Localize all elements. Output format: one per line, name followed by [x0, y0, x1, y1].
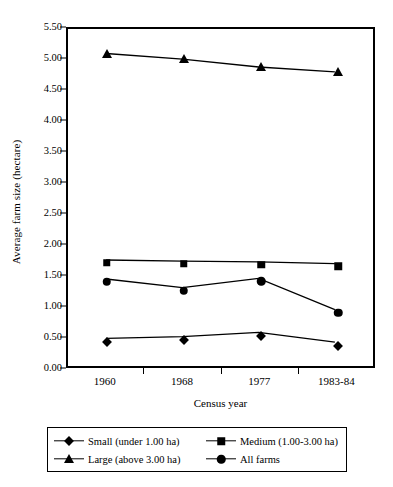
data-point-marker — [257, 277, 266, 286]
diamond-marker-icon — [54, 435, 84, 447]
legend-label: Small (under 1.00 ha) — [88, 436, 180, 447]
y-axis-tick-label: 5.00 — [2, 53, 62, 64]
data-point-marker — [103, 259, 111, 267]
x-axis-tick-label: 1983-84 — [291, 376, 381, 387]
y-axis-tick-label: 5.50 — [2, 22, 62, 33]
legend-label: All farms — [240, 454, 280, 465]
data-point-marker — [333, 341, 343, 351]
y-axis-tick-label: 1.00 — [2, 301, 62, 312]
y-axis-tick-label: 2.00 — [2, 239, 62, 250]
y-axis-tick-label: 3.50 — [2, 146, 62, 157]
circle-marker-icon — [206, 453, 236, 465]
legend-item-large: Large (above 3.00 ha) — [54, 453, 206, 465]
data-point-marker — [180, 286, 189, 295]
x-axis-tick-mark — [221, 368, 222, 374]
data-point-marker — [257, 261, 265, 269]
data-point-marker — [334, 309, 343, 318]
y-axis-tick-label: 0.00 — [2, 363, 62, 374]
data-point-marker — [256, 331, 266, 341]
legend-item-small: Small (under 1.00 ha) — [54, 435, 206, 447]
data-point-marker — [102, 278, 111, 287]
data-point-marker — [180, 260, 188, 268]
data-point-marker — [179, 54, 189, 63]
x-axis-tick-mark — [298, 368, 299, 374]
data-point-marker — [102, 337, 112, 347]
data-point-marker — [333, 67, 343, 76]
x-axis-tick-mark — [143, 368, 144, 374]
legend-label: Medium (1.00-3.00 ha) — [240, 436, 338, 447]
series-markers — [68, 29, 373, 366]
legend-item-all-farms: All farms — [206, 453, 280, 465]
y-axis-tick-label: 1.50 — [2, 270, 62, 281]
y-axis-tick-label: 0.50 — [2, 332, 62, 343]
legend-row: Small (under 1.00 ha) Medium (1.00-3.00 … — [54, 432, 340, 450]
chart-legend: Small (under 1.00 ha) Medium (1.00-3.00 … — [47, 427, 347, 472]
data-point-marker — [256, 62, 266, 71]
x-axis-title: Census year — [66, 397, 375, 409]
y-axis-tick-label: 2.50 — [2, 208, 62, 219]
legend-label: Large (above 3.00 ha) — [88, 454, 181, 465]
triangle-marker-icon — [54, 453, 84, 465]
y-axis-tick-label: 3.00 — [2, 177, 62, 188]
square-marker-icon — [206, 435, 236, 447]
plot-frame — [66, 27, 375, 368]
legend-item-medium: Medium (1.00-3.00 ha) — [206, 435, 338, 447]
data-point-marker — [335, 263, 343, 271]
y-axis-tick-label: 4.00 — [2, 115, 62, 126]
data-point-marker — [179, 335, 189, 345]
y-axis-tick-label: 4.50 — [2, 84, 62, 95]
data-point-marker — [102, 49, 112, 58]
legend-row: Large (above 3.00 ha) All farms — [54, 450, 340, 468]
farm-size-line-chart: Average farm size (hectare) 0.000.501.00… — [0, 0, 393, 487]
